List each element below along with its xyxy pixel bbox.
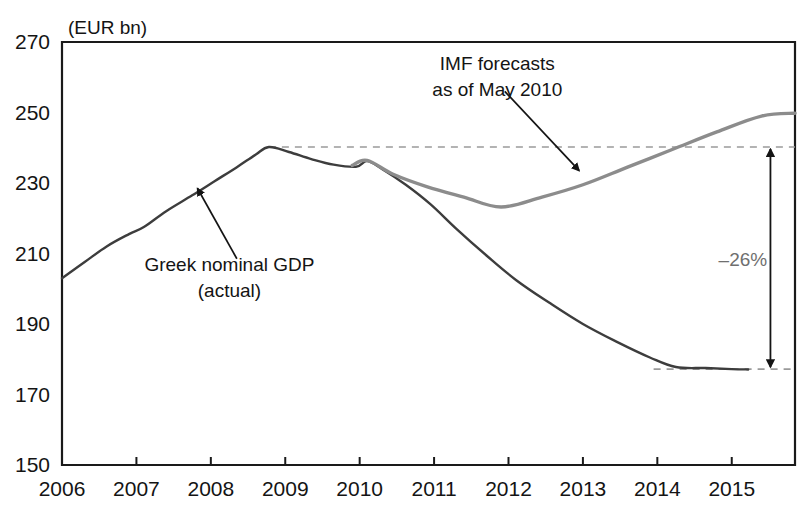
axis-unit-label: (EUR bn): [68, 17, 147, 38]
x-tick-label: 2012: [485, 477, 532, 500]
x-tick-label: 2007: [113, 477, 160, 500]
y-tick-label: 270: [15, 30, 50, 53]
chart-background: [0, 0, 808, 518]
annotation-text-line: Greek nominal GDP: [144, 254, 314, 275]
x-tick-label: 2015: [708, 477, 755, 500]
gdp-vs-imf-forecast-chart: (EUR bn) 270250230210190170150 200620072…: [0, 0, 808, 518]
chart-container: (EUR bn) 270250230210190170150 200620072…: [0, 0, 808, 518]
x-tick-label: 2013: [560, 477, 607, 500]
y-tick-label: 230: [15, 171, 50, 194]
gap-percent-label: –26%: [719, 249, 768, 270]
x-tick-label: 2006: [39, 477, 86, 500]
y-tick-label: 250: [15, 101, 50, 124]
x-tick-label: 2014: [634, 477, 681, 500]
annotation-text-line: IMF forecasts: [440, 53, 555, 74]
x-tick-label: 2010: [336, 477, 383, 500]
y-tick-label: 190: [15, 312, 50, 335]
annotation-text-line: (actual): [198, 280, 261, 301]
annotation-text-line: as of May 2010: [432, 79, 562, 100]
x-tick-label: 2011: [411, 477, 456, 500]
x-tick-label: 2009: [262, 477, 309, 500]
x-tick-label: 2008: [187, 477, 234, 500]
y-tick-label: 210: [15, 242, 50, 265]
y-tick-label: 150: [15, 453, 50, 476]
y-tick-label: 170: [15, 383, 50, 406]
